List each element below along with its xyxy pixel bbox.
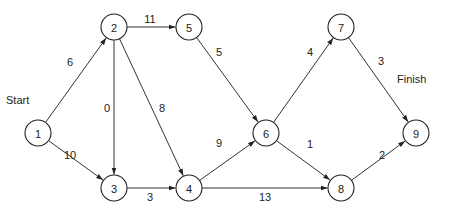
edge-weight-label: 2 (379, 149, 385, 161)
edge-weight-label: 3 (378, 55, 384, 67)
edge-weight-label: 6 (67, 56, 73, 68)
node-label: 8 (338, 183, 344, 195)
node-3: 3 (101, 175, 127, 201)
arrow-line (197, 38, 258, 123)
arrow-line (276, 141, 330, 180)
arrow-line (274, 38, 334, 122)
edge-weight-label: 9 (216, 137, 222, 149)
arrow-line (200, 141, 255, 181)
edge-weight-label: 3 (147, 191, 153, 203)
nodes-layer: 123456789 (25, 14, 429, 201)
node-label: 5 (186, 22, 192, 34)
start-label: Start (6, 94, 29, 106)
edge-weight-label: 13 (259, 191, 271, 203)
edge-weight-label: 1 (307, 138, 313, 150)
node-label: 6 (263, 128, 269, 140)
edge-6-8 (276, 141, 330, 180)
edge-weight-label: 0 (104, 102, 110, 114)
node-label: 4 (186, 183, 192, 195)
node-label: 3 (111, 183, 117, 195)
finish-label: Finish (397, 73, 426, 85)
node-label: 9 (413, 128, 419, 140)
network-diagram: 6101108359134132 123456789 Start Finish (0, 0, 452, 213)
node-4: 4 (176, 175, 202, 201)
node-5: 5 (176, 14, 202, 40)
node-6: 6 (253, 120, 279, 146)
node-2: 2 (101, 14, 127, 40)
node-9: 9 (403, 120, 429, 146)
node-1: 1 (25, 120, 51, 146)
edge-1-2 (46, 38, 107, 122)
edges-layer (46, 27, 409, 188)
edge-6-7 (274, 38, 334, 122)
edge-4-6 (200, 141, 255, 181)
arrow-line (46, 38, 107, 122)
node-label: 7 (338, 22, 344, 34)
edge-5-6 (197, 38, 258, 123)
edge-weight-label: 8 (159, 102, 165, 114)
edge-weight-label: 11 (144, 13, 155, 25)
edge-weight-labels: 6101108359134132 (64, 13, 385, 203)
edge-weight-label: 4 (307, 46, 313, 58)
arrow-line (119, 39, 183, 176)
node-label: 2 (111, 22, 117, 34)
edge-2-4 (119, 39, 183, 176)
node-8: 8 (328, 175, 354, 201)
node-label: 1 (35, 128, 41, 140)
edge-weight-label: 10 (64, 149, 76, 161)
node-7: 7 (328, 14, 354, 40)
edge-weight-label: 5 (216, 46, 222, 58)
